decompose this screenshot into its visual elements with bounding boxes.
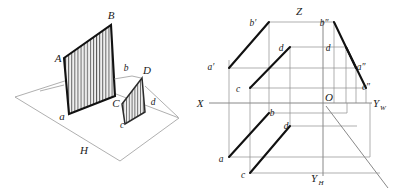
top-edge-ab: [229, 113, 269, 157]
yw-axis-label-group: Y W: [373, 97, 387, 112]
label-c-top: c: [241, 170, 246, 180]
plane-ABba-fill: [64, 25, 115, 114]
trace-b-to-D: [114, 76, 141, 79]
label-C: C: [112, 97, 120, 109]
label-a: a: [59, 110, 65, 122]
label-d: d: [151, 97, 156, 107]
label-a-prime: a′: [208, 62, 216, 72]
label-b-prime: b′: [250, 18, 258, 28]
front-edge-ab: [229, 22, 269, 68]
figure-root: A B a b C D c d H: [0, 0, 396, 195]
projection-group: X Z Y W Y H O a′ b′ c d a″ b″ c″ d a b: [196, 5, 388, 188]
mitre-45-line: [326, 106, 388, 188]
label-B: B: [108, 9, 115, 21]
pictorial-group: A B a b C D c d H: [15, 9, 179, 161]
plane-CDdc-fill: [122, 78, 145, 124]
label-a-double-prime: a″: [357, 62, 367, 72]
label-plane-H: H: [79, 144, 89, 156]
origin-label: O: [325, 91, 333, 103]
x-axis-label: X: [196, 97, 205, 109]
label-b-top: b: [270, 108, 275, 118]
yw-axis-subscript: W: [380, 104, 387, 112]
label-d-double-prime: d: [326, 43, 331, 53]
label-D: D: [142, 64, 151, 76]
label-b-double-prime: b″: [320, 18, 330, 28]
yh-axis-label-group: Y H: [311, 172, 325, 187]
label-d-top: d: [284, 121, 289, 131]
yh-axis-subscript: H: [317, 179, 324, 187]
label-d-prime: d: [279, 43, 284, 53]
label-c-prime: c: [236, 84, 241, 94]
z-axis-label: Z: [296, 5, 303, 17]
label-b: b: [124, 63, 129, 73]
front-edge-cd: [250, 47, 290, 88]
label-A: A: [54, 52, 62, 64]
label-a-top: a: [219, 154, 224, 164]
technical-drawing-svg: A B a b C D c d H: [0, 0, 396, 195]
top-edge-cd: [250, 126, 290, 173]
label-c-double-prime: c″: [362, 82, 371, 92]
